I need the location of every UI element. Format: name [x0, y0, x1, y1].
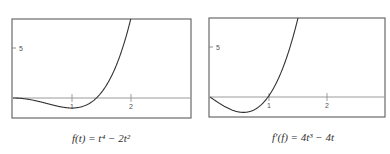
plot-frame	[209, 18, 385, 117]
chart-f-prime: 5 1 2	[209, 0, 385, 117]
chart-f: 5 1 2	[12, 0, 191, 118]
x-tick-label-1: 1	[267, 102, 271, 109]
caption-f: f(t) = t⁴ − 2t²	[72, 132, 130, 144]
caption-f-prime: f′(f) = 4t³ − 4t	[272, 131, 334, 143]
x-tick-label-2: 2	[129, 103, 133, 110]
plot-frame	[12, 19, 191, 118]
y-tick-label: 5	[216, 44, 220, 51]
x-tick-label-2: 2	[325, 102, 329, 109]
y-tick-label: 5	[19, 45, 23, 52]
x-tick-label-1: 1	[70, 103, 74, 110]
